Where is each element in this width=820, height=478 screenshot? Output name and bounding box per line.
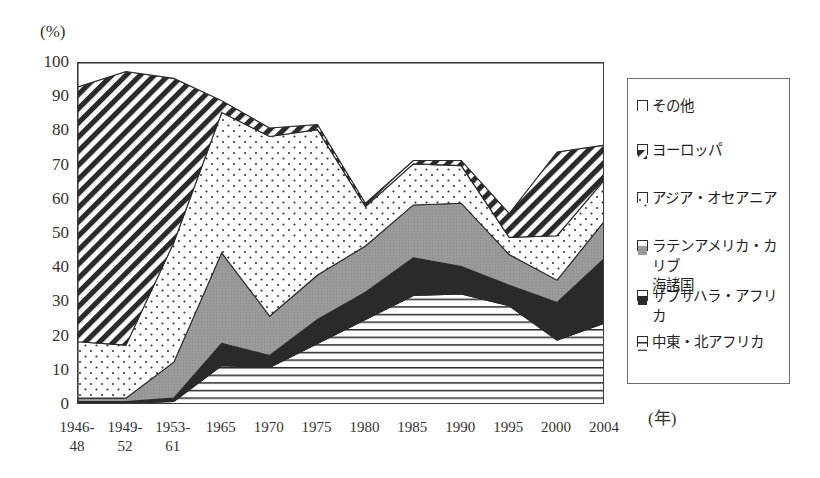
x-axis-tick-1: 1949- 52 <box>107 418 142 456</box>
legend-swatch-black-icon <box>637 290 648 301</box>
x-axis-tick-7: 1985 <box>397 418 427 437</box>
legend-swatch-white-icon <box>637 100 648 111</box>
y-axis-tick-80: 80 <box>23 120 69 140</box>
chart-figure: (%) (年) 1009080706050403020100 1946- 481… <box>0 0 820 478</box>
legend-item-0[interactable]: その他 <box>637 97 694 117</box>
y-axis-tick-40: 40 <box>23 257 69 277</box>
y-axis-tick-70: 70 <box>23 155 69 175</box>
x-axis-tick-3: 1965 <box>206 418 236 437</box>
y-axis-tick-100: 100 <box>23 52 69 72</box>
y-axis-tick-90: 90 <box>23 86 69 106</box>
x-axis-tick-8: 1990 <box>445 418 475 437</box>
legend-item-1[interactable]: ヨーロッパ <box>637 141 722 161</box>
y-axis-tick-30: 30 <box>23 291 69 311</box>
legend-swatch-gray-icon <box>637 240 648 251</box>
y-axis-unit-label: (%) <box>40 22 65 42</box>
legend-label-0: その他 <box>652 97 694 117</box>
legend-item-4[interactable]: サブサハラ・アフリカ <box>637 287 789 326</box>
x-axis-tick-10: 2000 <box>541 418 571 437</box>
plot-area <box>77 62 604 404</box>
x-axis-unit-label: (年) <box>648 404 676 429</box>
x-axis-tick-5: 1975 <box>302 418 332 437</box>
y-axis-tick-50: 50 <box>23 223 69 243</box>
legend-label-1: ヨーロッパ <box>652 141 722 161</box>
x-axis-tick-4: 1970 <box>254 418 284 437</box>
x-axis-tick-0: 1946- 48 <box>60 418 95 456</box>
legend-label-5: 中東・北アフリカ <box>652 333 764 353</box>
y-axis-tick-0: 0 <box>23 394 69 414</box>
legend-item-2[interactable]: アジア・オセアニア <box>637 189 777 209</box>
legend-swatch-diagonal-icon <box>637 144 648 155</box>
legend-swatch-dots-icon <box>637 192 648 203</box>
chart-legend: その他ヨーロッパアジア・オセアニアラテンアメリカ・カリブ 海諸国サブサハラ・アフ… <box>627 78 790 384</box>
y-axis-tick-10: 10 <box>23 360 69 380</box>
x-axis-tick-6: 1980 <box>349 418 379 437</box>
legend-swatch-horizontal-icon <box>637 336 648 347</box>
y-axis-tick-60: 60 <box>23 189 69 209</box>
x-axis-tick-9: 1995 <box>493 418 523 437</box>
x-axis-tick-11: 2004 <box>589 418 619 437</box>
legend-label-2: アジア・オセアニア <box>652 189 777 209</box>
y-axis-tick-20: 20 <box>23 326 69 346</box>
x-axis-tick-2: 1953- 61 <box>155 418 190 456</box>
legend-item-5[interactable]: 中東・北アフリカ <box>637 333 764 353</box>
legend-label-4: サブサハラ・アフリカ <box>652 287 789 326</box>
